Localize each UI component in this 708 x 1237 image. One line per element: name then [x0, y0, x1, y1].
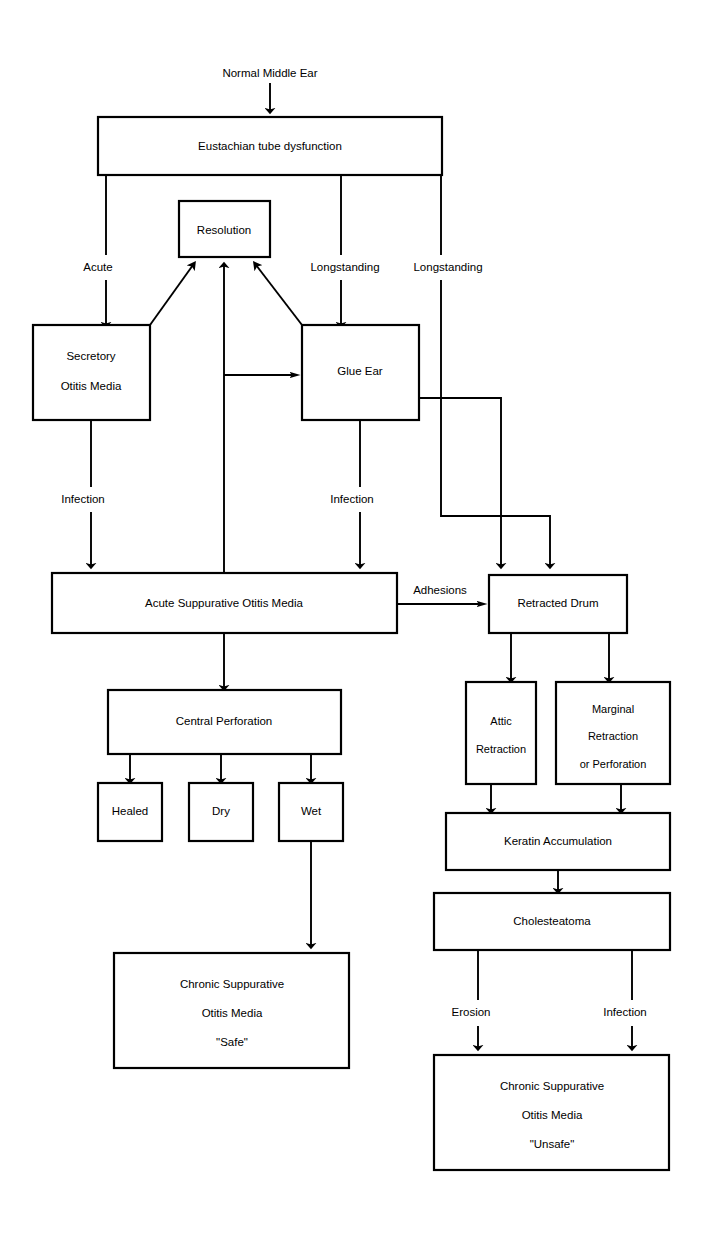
- attic-label-line2: Retraction: [476, 743, 526, 755]
- secretory-label-line1: Secretory: [66, 350, 115, 362]
- csom-unsafe-label-line3: "Unsafe": [530, 1138, 575, 1150]
- normal-middle-ear-label: Normal Middle Ear: [222, 67, 317, 79]
- edge-label-longstanding-2: Longstanding: [413, 261, 482, 273]
- node-keratin-accumulation: Keratin Accumulation: [446, 813, 670, 870]
- retracted-drum-label: Retracted Drum: [517, 597, 598, 609]
- flowchart-diagram: Normal Middle Ear Eustachian tube dysfun…: [0, 0, 708, 1237]
- acute-suppurative-label: Acute Suppurative Otitis Media: [145, 597, 303, 609]
- node-cholesteatoma: Cholesteatoma: [434, 893, 670, 950]
- keratin-label: Keratin Accumulation: [504, 835, 612, 847]
- node-wet: Wet: [279, 783, 343, 841]
- eustachian-label: Eustachian tube dysfunction: [198, 140, 342, 152]
- node-acute-suppurative-otitis-media: Acute Suppurative Otitis Media: [52, 573, 397, 633]
- edge-label-infection-3: Infection: [603, 1006, 646, 1018]
- edge-label-infection-2: Infection: [330, 493, 373, 505]
- node-marginal-retraction: Marginal Retraction or Perforation: [556, 682, 670, 784]
- edge-glue-ear-to-retracted-drum: [419, 398, 501, 566]
- edge-glue-ear-to-resolution: [256, 265, 302, 325]
- dry-label: Dry: [212, 805, 230, 817]
- glue-ear-label: Glue Ear: [337, 365, 383, 377]
- edge-label-longstanding-1: Longstanding: [310, 261, 379, 273]
- csom-safe-label-line1: Chronic Suppurative: [180, 978, 284, 990]
- node-csom-safe: Chronic Suppurative Otitis Media "Safe": [114, 953, 349, 1068]
- node-csom-unsafe: Chronic Suppurative Otitis Media "Unsafe…: [434, 1055, 669, 1170]
- csom-unsafe-label-line2: Otitis Media: [522, 1109, 583, 1121]
- node-eustachian-tube-dysfunction: Eustachian tube dysfunction: [98, 117, 442, 175]
- edge-longstanding-to-retracted-drum: [441, 440, 550, 566]
- node-healed: Healed: [98, 783, 162, 841]
- healed-label: Healed: [112, 805, 148, 817]
- cholesteatoma-label: Cholesteatoma: [513, 915, 591, 927]
- attic-retraction-box: [466, 682, 536, 784]
- node-glue-ear: Glue Ear: [302, 325, 419, 420]
- secretory-label-line2: Otitis Media: [61, 380, 122, 392]
- node-retracted-drum: Retracted Drum: [489, 575, 627, 633]
- marginal-label-line2: Retraction: [588, 730, 638, 742]
- node-resolution: Resolution: [179, 201, 270, 257]
- csom-safe-label-line3: "Safe": [216, 1036, 248, 1048]
- secretory-box: [33, 325, 150, 420]
- central-perforation-label: Central Perforation: [176, 715, 273, 727]
- edge-label-erosion: Erosion: [452, 1006, 491, 1018]
- csom-safe-label-line2: Otitis Media: [202, 1007, 263, 1019]
- marginal-label-line3: or Perforation: [580, 758, 647, 770]
- marginal-label-line1: Marginal: [592, 703, 634, 715]
- edge-secretory-to-resolution: [150, 265, 193, 325]
- flowchart-canvas: Normal Middle Ear Eustachian tube dysfun…: [0, 0, 708, 1237]
- resolution-label: Resolution: [197, 224, 251, 236]
- edge-label-acute: Acute: [83, 261, 112, 273]
- edge-label-infection-1: Infection: [61, 493, 104, 505]
- attic-label-line1: Attic: [490, 715, 512, 727]
- node-dry: Dry: [189, 783, 253, 841]
- node-attic-retraction: Attic Retraction: [466, 682, 536, 784]
- node-central-perforation: Central Perforation: [108, 690, 341, 754]
- csom-unsafe-label-line1: Chronic Suppurative: [500, 1080, 604, 1092]
- node-secretory-otitis-media: Secretory Otitis Media: [33, 325, 150, 420]
- edge-label-adhesions: Adhesions: [413, 584, 467, 596]
- wet-label: Wet: [301, 805, 322, 817]
